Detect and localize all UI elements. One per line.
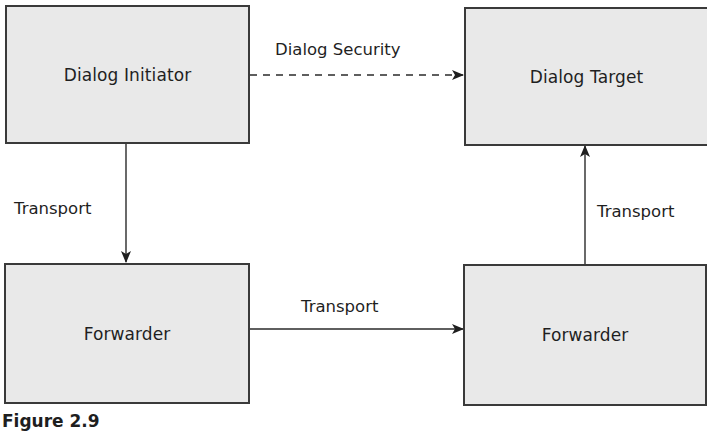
dialog-security-label: Dialog Security bbox=[275, 40, 401, 59]
transport-label-right: Transport bbox=[597, 202, 674, 221]
forwarder-left-box: Forwarder bbox=[4, 263, 250, 404]
forwarder-left-label: Forwarder bbox=[84, 324, 171, 344]
dialog-initiator-box: Dialog Initiator bbox=[5, 5, 250, 144]
forwarder-right-box: Forwarder bbox=[463, 264, 707, 406]
transport-label-bottom: Transport bbox=[301, 297, 378, 316]
dialog-target-label: Dialog Target bbox=[530, 67, 643, 87]
transport-label-left: Transport bbox=[14, 199, 91, 218]
forwarder-right-label: Forwarder bbox=[542, 325, 629, 345]
dialog-initiator-label: Dialog Initiator bbox=[64, 65, 192, 85]
dialog-target-box: Dialog Target bbox=[464, 7, 707, 146]
figure-caption: Figure 2.9 bbox=[2, 411, 100, 431]
